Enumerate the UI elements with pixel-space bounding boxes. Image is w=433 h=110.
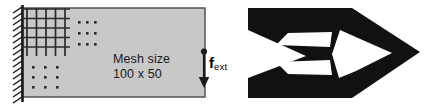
- optimized-topology-panel: [240, 0, 433, 110]
- force-subscript: ext: [214, 61, 227, 72]
- mesh-size-label: Mesh size 100 x 50: [113, 52, 199, 82]
- optimized-topology-drawing: [240, 0, 433, 110]
- design-domain-panel: Mesh size 100 x 50 fext: [0, 0, 240, 110]
- topology-optimization-figure: Mesh size 100 x 50 fext: [0, 0, 433, 110]
- fixed-support-hatching: [13, 7, 22, 103]
- mesh-size-line1: Mesh size: [113, 52, 199, 67]
- mesh-size-line2: 100 x 50: [113, 67, 199, 82]
- external-force-label: fext: [209, 56, 227, 72]
